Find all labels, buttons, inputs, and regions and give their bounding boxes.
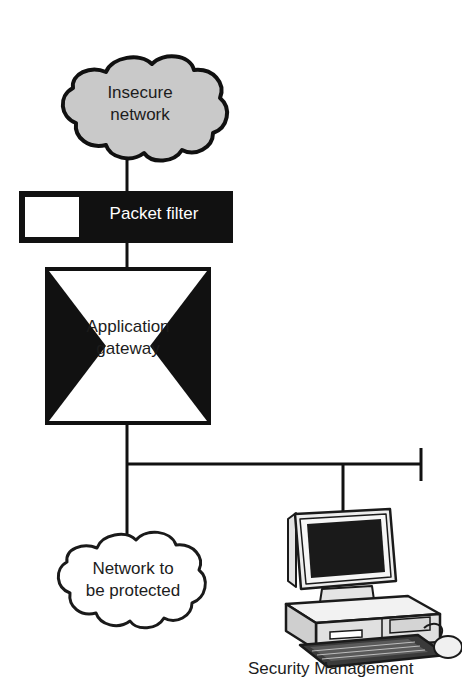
protected-network-cloud-shape (58, 532, 205, 628)
network-security-diagram: Insecure network Packet filter Applicati… (0, 0, 462, 700)
packet-filter-node (19, 191, 233, 243)
insecure-network-cloud-shape (63, 56, 227, 160)
monitor-screen (307, 519, 385, 578)
application-gateway-node (47, 269, 209, 423)
packet-filter-white-square (25, 197, 79, 237)
protected-network-cloud (58, 532, 205, 628)
desktop-case-drive-slot (330, 630, 362, 639)
insecure-network-cloud (63, 56, 227, 160)
security-management-computer (286, 509, 462, 667)
desktop-case-panel-detail (390, 617, 430, 633)
diagram-canvas (0, 0, 462, 700)
mouse (434, 636, 462, 658)
